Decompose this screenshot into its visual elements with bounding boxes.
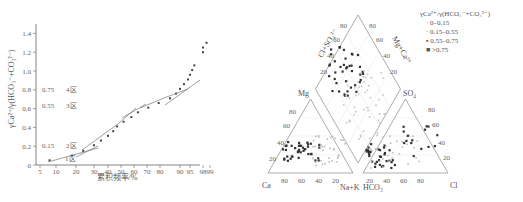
svg-text:40: 40 <box>277 139 285 147</box>
svg-text:80: 80 <box>369 22 377 30</box>
mgca-label: Mg+Ca²⁺ <box>390 35 413 66</box>
svg-text:0.75: 0.75 <box>42 86 55 94</box>
svg-text:20: 20 <box>443 154 451 162</box>
svg-text:60: 60 <box>298 177 306 185</box>
legend: γCa²⁺/γ(HCO₃⁻+CO₃²⁻) · 0–0.15 · 0.15–0.5… <box>420 10 490 55</box>
svg-text:0.15: 0.15 <box>42 142 55 150</box>
svg-text:40: 40 <box>315 177 323 185</box>
svg-text:80: 80 <box>281 177 289 185</box>
svg-text:2区: 2区 <box>66 142 77 150</box>
svg-text:60: 60 <box>432 121 440 129</box>
legend-item: ▪ 0.55–0.75 <box>420 37 490 46</box>
nak-hco3-label: Na+K <box>340 183 360 192</box>
legend-title: γCa²⁺/γ(HCO₃⁻+CO₃²⁻) <box>420 10 490 19</box>
svg-text:20: 20 <box>332 177 340 185</box>
svg-text:0.8: 0.8 <box>22 86 31 94</box>
svg-text:0.6: 0.6 <box>22 105 31 113</box>
svg-text:20: 20 <box>73 168 81 176</box>
svg-text:99: 99 <box>207 168 215 176</box>
svg-text:60: 60 <box>283 122 291 130</box>
ca-label: Ca <box>262 181 271 190</box>
svg-text:0: 0 <box>28 162 32 170</box>
svg-text:1.4: 1.4 <box>22 30 31 38</box>
y-axis-label: γCa²⁺/γ(HCO₃⁻+CO₃²⁻) <box>7 49 16 129</box>
svg-text:4区: 4区 <box>66 86 77 94</box>
svg-text:3区: 3区 <box>66 102 77 110</box>
legend-item: · 0.15–0.55 <box>420 28 490 37</box>
svg-text:90: 90 <box>177 168 185 176</box>
svg-text:1区: 1区 <box>65 155 76 163</box>
so4-label: SO₄ <box>403 89 416 98</box>
legend-label: 0.55–0.75 <box>430 37 458 45</box>
cl-label: Cl <box>450 181 458 190</box>
svg-text:60: 60 <box>376 36 384 44</box>
mg-label: Mg <box>298 89 309 98</box>
svg-text:1.2: 1.2 <box>22 49 31 57</box>
svg-text:40: 40 <box>383 52 391 60</box>
svg-text:60: 60 <box>400 177 408 185</box>
svg-text:80: 80 <box>417 177 425 185</box>
x-axis-label: 累积频率/% <box>97 172 138 182</box>
svg-text:20: 20 <box>390 68 398 76</box>
left-chart: 00.20.40.60.81.01.21.4 51020304050607080… <box>7 24 214 182</box>
svg-text:60: 60 <box>333 36 341 44</box>
legend-label: 0.15–0.55 <box>430 28 458 36</box>
svg-text:80: 80 <box>340 22 348 30</box>
svg-text:80: 80 <box>157 168 165 176</box>
legend-item: ■ >0.75 <box>420 46 490 55</box>
svg-text:1.0: 1.0 <box>22 68 31 76</box>
svg-text:0.2: 0.2 <box>22 143 31 151</box>
legend-item: · 0–0.15 <box>420 19 490 28</box>
svg-text:0.4: 0.4 <box>22 124 31 132</box>
svg-text:70: 70 <box>144 168 152 176</box>
svg-text:20: 20 <box>320 68 328 76</box>
svg-text:40: 40 <box>438 139 446 147</box>
svg-text:20: 20 <box>269 155 277 163</box>
svg-text:0.55: 0.55 <box>42 102 55 110</box>
svg-text:20: 20 <box>366 177 374 185</box>
svg-text:5: 5 <box>38 168 42 176</box>
svg-text:80: 80 <box>428 106 436 114</box>
svg-text:10: 10 <box>53 168 61 176</box>
svg-text:95: 95 <box>187 168 195 176</box>
legend-label: >0.75 <box>432 46 448 54</box>
svg-text:40: 40 <box>383 177 391 185</box>
svg-text:80: 80 <box>289 108 297 116</box>
legend-label: 0–0.15 <box>430 19 449 27</box>
svg-text:40: 40 <box>327 52 335 60</box>
